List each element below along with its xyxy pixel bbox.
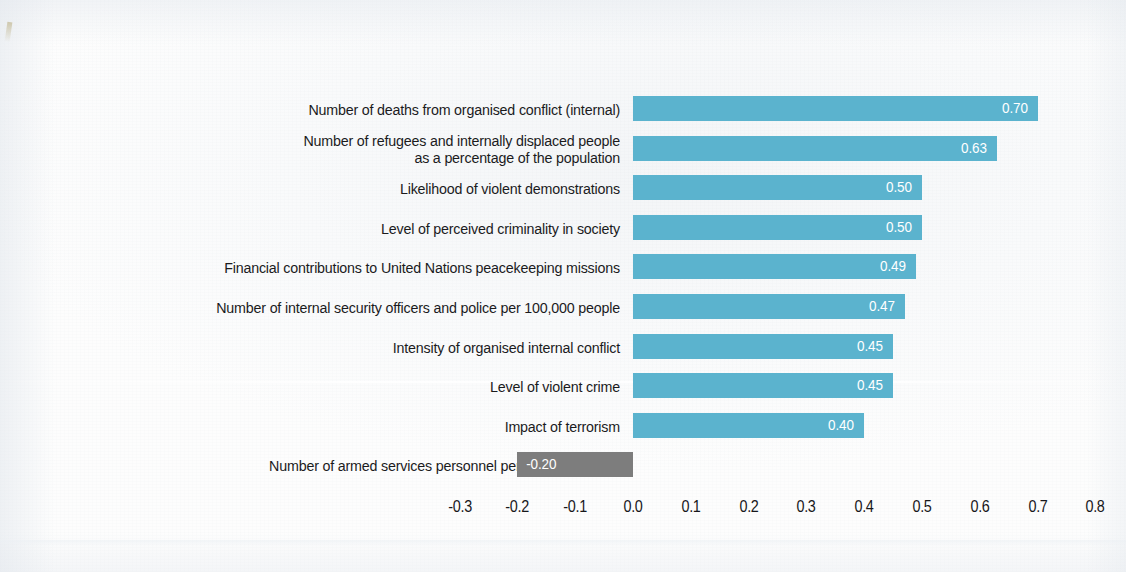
- category-label: Level of perceived criminality in societ…: [68, 220, 620, 237]
- category-label: Level of violent crime: [68, 378, 620, 395]
- bar-value-label: 0.45: [857, 373, 883, 398]
- bar-positive: 0.49: [633, 254, 916, 279]
- bar-positive: 0.47: [633, 294, 905, 319]
- bar-row: Intensity of organised internal conflict…: [0, 334, 1126, 373]
- bar-row: Impact of terrorism0.40: [0, 413, 1126, 452]
- x-axis-tick-labels: -0.3-0.2-0.10.00.10.20.30.40.50.60.70.8: [0, 498, 1126, 524]
- bar-row: Level of violent crime0.45: [0, 373, 1126, 412]
- bar-value-label: 0.40: [828, 413, 854, 438]
- bar-value-label: -0.20: [527, 452, 557, 477]
- bar-row: Number of armed services personnel per 1…: [0, 452, 1126, 491]
- bar-value-label: 0.49: [880, 254, 906, 279]
- bar-row: Number of refugees and internally displa…: [0, 136, 1126, 175]
- bar-positive: 0.45: [633, 334, 893, 359]
- bar-value-label: 0.47: [869, 294, 895, 319]
- category-label: Number of refugees and internally displa…: [68, 132, 620, 166]
- bar-negative: -0.20: [517, 452, 633, 477]
- bar-row: Financial contributions to United Nation…: [0, 254, 1126, 293]
- x-tick-label: -0.2: [490, 498, 544, 516]
- bar-row: Number of deaths from organised conflict…: [0, 96, 1126, 135]
- x-tick-label: 0.7: [1011, 498, 1065, 516]
- bar-value-label: 0.63: [961, 136, 987, 161]
- category-label: Number of deaths from organised conflict…: [68, 101, 620, 118]
- x-tick-label: -0.3: [433, 498, 487, 516]
- x-tick-label: 0.2: [722, 498, 776, 516]
- bar-value-label: 0.50: [886, 215, 912, 240]
- x-tick-label: 0.5: [895, 498, 949, 516]
- category-label: Number of internal security officers and…: [68, 299, 620, 316]
- bar-positive: 0.45: [633, 373, 893, 398]
- category-label: Intensity of organised internal conflict: [68, 339, 620, 356]
- bar-positive: 0.50: [633, 175, 922, 200]
- bar-row: Number of internal security officers and…: [0, 294, 1126, 333]
- scanned-chart-page: Number of deaths from organised conflict…: [0, 0, 1126, 572]
- bar-positive: 0.70: [633, 96, 1038, 121]
- bar-positive: 0.50: [633, 215, 922, 240]
- bar-value-label: 0.45: [857, 334, 883, 359]
- bar-row: Likelihood of violent demonstrations0.50: [0, 175, 1126, 214]
- x-tick-label: 0.1: [664, 498, 718, 516]
- x-tick-label: -0.1: [548, 498, 602, 516]
- category-label: Financial contributions to United Nation…: [68, 259, 620, 276]
- bar-positive: 0.63: [633, 136, 997, 161]
- x-tick-label: 0.6: [953, 498, 1007, 516]
- bar-value-label: 0.70: [1002, 96, 1028, 121]
- bar-value-label: 0.50: [886, 175, 912, 200]
- bar-chart-plot-area: Number of deaths from organised conflict…: [0, 0, 1126, 572]
- x-tick-label: 0.8: [1068, 498, 1122, 516]
- bar-positive: 0.40: [633, 413, 864, 438]
- x-tick-label: 0.3: [779, 498, 833, 516]
- x-tick-label: 0.4: [837, 498, 891, 516]
- category-label: Likelihood of violent demonstrations: [68, 180, 620, 197]
- bar-row: Level of perceived criminality in societ…: [0, 215, 1126, 254]
- category-label: Impact of terrorism: [68, 418, 620, 435]
- x-tick-label: 0.0: [606, 498, 660, 516]
